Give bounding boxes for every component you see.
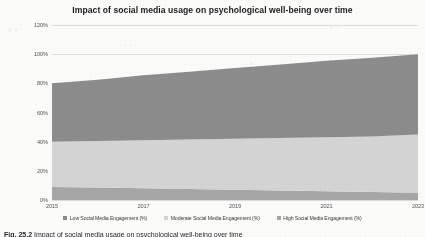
figure-caption-text: Impact of social media usage on psycholo…: [34, 231, 243, 237]
x-axis-tick-label: 2023: [412, 203, 424, 209]
chart-title: Impact of social media usage on psycholo…: [0, 5, 425, 15]
chart-legend: Low Social Media Engagement (%)Moderate …: [0, 215, 425, 221]
legend-item[interactable]: Moderate Social Media Engagement (%): [164, 215, 260, 221]
legend-item[interactable]: High Social Media Engagement (%): [277, 215, 362, 221]
y-axis-ticks: 0%20%40%60%80%100%120%: [18, 0, 48, 237]
x-axis-tick-label: 2015: [46, 203, 58, 209]
figure-caption-number: 25.2: [18, 231, 32, 237]
y-axis-tick-label: 60%: [18, 110, 48, 116]
legend-swatch-icon: [164, 216, 168, 220]
legend-label: Low Social Media Engagement (%): [70, 215, 147, 221]
x-axis-tick-label: 2019: [229, 203, 241, 209]
y-axis-tick-label: 100%: [18, 51, 48, 57]
x-axis-tick-label: 2021: [320, 203, 332, 209]
legend-swatch-icon: [277, 216, 281, 220]
x-axis-tick-label: 2017: [137, 203, 149, 209]
y-axis-tick-label: 80%: [18, 80, 48, 86]
legend-swatch-icon: [63, 216, 67, 220]
chart-plot-area: 0%20%40%60%80%100%120% 20152017201920212…: [0, 0, 425, 237]
area-band: [52, 134, 418, 192]
y-axis-tick-label: 20%: [18, 168, 48, 174]
y-axis-tick-label: 40%: [18, 139, 48, 145]
figure-caption-label: Fig.: [4, 231, 16, 237]
stacked-area-series-group: [0, 0, 425, 237]
legend-label: Moderate Social Media Engagement (%): [171, 215, 260, 221]
y-axis-tick-label: 0%: [18, 197, 48, 203]
legend-item[interactable]: Low Social Media Engagement (%): [63, 215, 147, 221]
y-axis-tick-label: 120%: [18, 22, 48, 28]
figure-caption: Fig. 25.2 Impact of social media usage o…: [4, 231, 243, 237]
legend-label: High Social Media Engagement (%): [283, 215, 361, 221]
area-band: [52, 54, 418, 142]
